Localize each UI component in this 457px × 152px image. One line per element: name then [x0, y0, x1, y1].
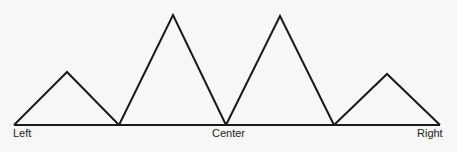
center-label: Center — [212, 128, 245, 139]
right-tall-peak — [226, 16, 334, 125]
right-small-peak — [334, 74, 440, 125]
left-small-peak — [14, 72, 119, 125]
right-label: Right — [417, 128, 443, 139]
left-label: Left — [13, 128, 31, 139]
left-tall-peak — [119, 15, 226, 125]
